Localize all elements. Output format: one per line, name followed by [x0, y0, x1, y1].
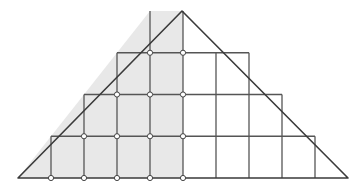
shaded-cell-r1c2	[84, 136, 117, 178]
vertex-dot	[114, 134, 119, 139]
vertex-dot	[180, 134, 185, 139]
shaded-cell-r3c2	[150, 53, 183, 95]
shaded-cell-r4c1	[150, 11, 183, 53]
shaded-cell-r3c1	[117, 53, 150, 95]
vertex-dot	[147, 50, 152, 55]
shaded-cell-r2c1	[84, 95, 117, 137]
shaded-corner-triangle-row1	[18, 136, 51, 178]
vertex-dot	[147, 134, 152, 139]
figure-container: Shaded triangular grid figure	[0, 0, 363, 193]
vertex-dot	[180, 50, 185, 55]
vertex-dot	[180, 92, 185, 97]
vertex-dot	[48, 175, 53, 180]
vertex-dot	[147, 92, 152, 97]
vertex-dot	[114, 92, 119, 97]
vertex-dot	[147, 175, 152, 180]
vertex-dot	[81, 134, 86, 139]
vertex-dot	[114, 175, 119, 180]
vertex-dot	[180, 175, 185, 180]
shaded-cell-r1c1	[51, 136, 84, 178]
shaded-cell-r1c3	[117, 136, 150, 178]
shaded-cell-r2c3	[150, 95, 183, 137]
triangle-grid-figure: Shaded triangular grid figure	[0, 0, 363, 193]
shaded-cell-r2c2	[117, 95, 150, 137]
vertex-dot	[81, 175, 86, 180]
shaded-corner-triangle-row4	[117, 11, 150, 53]
shaded-cell-r1c4	[150, 136, 183, 178]
shaded-corner-triangle-row3	[84, 53, 117, 95]
